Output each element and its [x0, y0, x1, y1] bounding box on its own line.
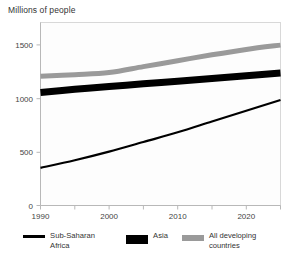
y-tick-label-1000: 1000 — [15, 95, 33, 104]
y-tick-label-0: 0 — [29, 202, 34, 211]
legend-label-sub-saharan-africa: Sub-Saharan Africa — [50, 231, 112, 250]
x-tick-label-1990: 1990 — [32, 212, 50, 221]
legend-label-all-developing-countries: All developing countries — [209, 231, 271, 250]
chart-plot-area: 1500 1000 500 0 1990 2000 2010 2020 — [0, 0, 294, 265]
thick-gray-bar-swatch-icon — [182, 235, 204, 241]
legend-item-sub-saharan-africa: Sub-Saharan Africa — [23, 231, 112, 250]
y-tick-label-500: 500 — [20, 148, 34, 157]
thin-black-line-swatch-icon — [23, 235, 45, 238]
thick-black-bar-swatch-icon — [126, 235, 148, 244]
legend-item-asia: Asia — [126, 231, 168, 244]
x-tick-label-2020: 2020 — [237, 212, 255, 221]
y-tick-marks — [37, 45, 41, 206]
chart-legend: Sub-Saharan Africa Asia All developing c… — [0, 231, 294, 261]
legend-item-all-developing-countries: All developing countries — [182, 231, 271, 250]
x-tick-label-2000: 2000 — [100, 212, 118, 221]
x-tick-label-2010: 2010 — [169, 212, 187, 221]
legend-label-asia: Asia — [153, 231, 168, 241]
chart-figure: Millions of people 1500 1000 5 — [0, 0, 294, 265]
x-tick-marks — [41, 206, 281, 210]
y-tick-label-1500: 1500 — [15, 41, 33, 50]
